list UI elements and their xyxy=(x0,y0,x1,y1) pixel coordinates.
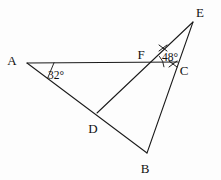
segment-AC xyxy=(27,62,178,63)
angle-label-A: 32° xyxy=(48,69,65,81)
vertex-label-C: C xyxy=(180,63,189,78)
segments-group xyxy=(27,22,193,153)
vertex-labels-group: A B C D E F xyxy=(7,5,204,176)
vertex-label-A: A xyxy=(7,53,17,68)
angle-labels-group: 32° 48° xyxy=(48,51,179,81)
vertex-label-D: D xyxy=(88,121,97,136)
geometry-figure: A B C D E F 32° 48° xyxy=(0,0,221,180)
geometry-canvas: A B C D E F 32° 48° xyxy=(0,0,221,180)
vertex-label-F: F xyxy=(137,47,144,62)
segment-AB xyxy=(27,63,147,153)
vertex-label-B: B xyxy=(141,161,150,176)
angle-label-F: 48° xyxy=(162,51,179,63)
segment-BE xyxy=(147,22,193,153)
vertex-label-E: E xyxy=(196,5,204,20)
segment-DE xyxy=(97,22,193,113)
